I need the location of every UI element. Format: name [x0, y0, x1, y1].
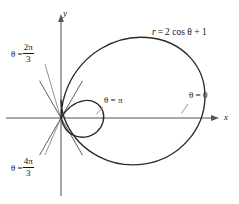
equation-operator: =: [158, 27, 163, 37]
leader-four-pi-thirds: [45, 120, 60, 156]
polar-graph-figure: y x r=2 cos θ + 1 θ = 0 θ = π θ =2π3 θ =…: [0, 0, 239, 204]
theta-four-pi-thirds-prefix: θ =: [11, 164, 23, 173]
x-axis-label: x: [224, 113, 228, 122]
theta-two-pi-thirds-label: θ =2π3: [11, 44, 34, 65]
theta-two-pi-thirds-fraction: 2π3: [23, 43, 34, 64]
equation-label: r=2 cos θ + 1: [152, 28, 207, 38]
theta-four-pi-thirds-fraction: 4π3: [23, 157, 34, 178]
theta-four-pi-thirds-label: θ =4π3: [11, 158, 34, 179]
theta-two-pi-thirds-prefix: θ =: [11, 50, 23, 59]
theta-pi-label: θ = π: [104, 96, 122, 105]
ray-four-pi-thirds: [40, 118, 62, 155]
leader-two-pi-thirds: [45, 64, 60, 117]
x-axis: [6, 115, 219, 121]
fraction-numerator: 2π: [23, 43, 34, 54]
ray-two-pi-thirds: [40, 81, 62, 118]
fraction-numerator: 4π: [23, 157, 34, 168]
equation-rhs: 2 cos θ + 1: [165, 27, 207, 37]
equation-lhs: r: [152, 27, 156, 37]
y-axis-label: y: [63, 9, 67, 18]
leader-theta-zero: [182, 104, 189, 114]
limacon-inner-loop: [61, 100, 104, 137]
fraction-denominator: 3: [23, 54, 34, 64]
theta-zero-label: θ = 0: [189, 91, 207, 100]
fraction-denominator: 3: [23, 168, 34, 178]
